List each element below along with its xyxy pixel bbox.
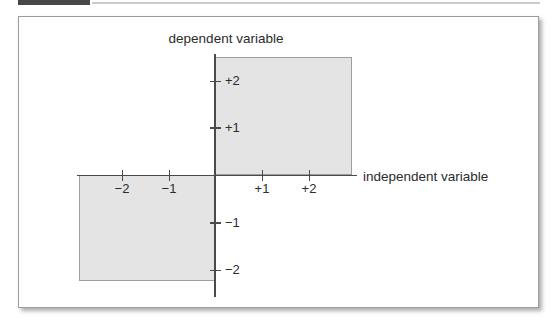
- y-axis-tick-label-plus-1: +1: [225, 120, 240, 136]
- x-axis-tick-label-plus-1: +1: [246, 181, 278, 197]
- y-axis-tick-minus-1: [210, 222, 221, 224]
- x-axis-tick-label-minus-2: −2: [106, 181, 138, 197]
- x-axis-title: independent variable: [363, 169, 488, 185]
- figure-header-rule: [92, 2, 540, 4]
- x-axis-tick-label-minus-1: −1: [153, 181, 185, 197]
- figure-page: −2 −1 +1 +2 +2 +1 −1 −2 dependent variab…: [0, 0, 560, 330]
- y-axis-tick-label-minus-2: −2: [225, 262, 240, 278]
- y-axis-tick-minus-2: [210, 270, 221, 272]
- x-axis-tick-minus-2: [122, 170, 124, 181]
- y-axis-tick-label-plus-2: +2: [225, 73, 240, 89]
- y-axis-tick-plus-2: [210, 81, 221, 83]
- shaded-region-quadrant-3: [79, 175, 215, 281]
- x-axis-tick-label-plus-2: +2: [293, 181, 325, 197]
- y-axis-tick-label-minus-1: −1: [225, 215, 240, 231]
- figure-header-bar: [18, 0, 90, 5]
- x-axis-tick-plus-2: [309, 170, 311, 181]
- x-axis-line: [77, 175, 357, 177]
- y-axis-title: dependent variable: [140, 31, 312, 47]
- y-axis-tick-plus-1: [210, 127, 221, 129]
- x-axis-tick-plus-1: [262, 170, 264, 181]
- x-axis-tick-minus-1: [169, 170, 171, 181]
